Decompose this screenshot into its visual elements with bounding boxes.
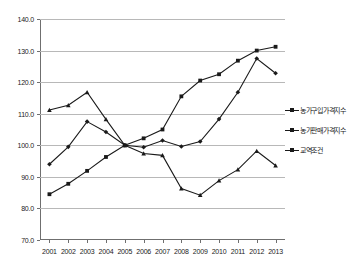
data-point-marker [85, 169, 89, 173]
data-point-marker [217, 72, 221, 76]
y-tick-label: 130.0 [0, 47, 34, 54]
x-tick-mark [87, 240, 88, 243]
legend-item-purchase-price-index: 농가구입가격지수 [285, 100, 359, 120]
legend-item-label: 농가구입가격지수 [299, 105, 346, 115]
x-tick-label: 2001 [42, 248, 57, 255]
x-tick-label: 2010 [212, 248, 227, 255]
y-tick-label: 120.0 [0, 79, 34, 86]
x-tick-mark [219, 240, 220, 243]
y-tick-mark [37, 240, 40, 241]
x-tick-mark [238, 240, 239, 243]
chart-legend: 농가구입가격지수 농가판매가격지수 교역조건 [285, 100, 359, 160]
x-tick-mark [144, 240, 145, 243]
line-chart: 140.0130.0120.0110.0100.090.080.070.0 20… [0, 0, 359, 271]
legend-item-terms-of-trade: 교역조건 [285, 140, 359, 160]
data-point-marker [48, 192, 52, 196]
y-tick-label: 110.0 [0, 110, 34, 117]
x-tick-mark [106, 240, 107, 243]
data-point-marker [66, 182, 70, 186]
series-line [49, 58, 275, 164]
data-point-marker [161, 128, 165, 132]
x-tick-label: 2004 [99, 248, 114, 255]
data-point-marker [85, 90, 90, 94]
x-tick-label: 2005 [117, 248, 132, 255]
y-tick-label: 90.0 [0, 173, 34, 180]
x-tick-mark [181, 240, 182, 243]
y-tick-label: 100.0 [0, 142, 34, 149]
x-tick-label: 2007 [155, 248, 170, 255]
x-tick-label: 2012 [249, 248, 264, 255]
data-point-marker [254, 149, 259, 153]
y-tick-label: 140.0 [0, 16, 34, 23]
data-point-marker [179, 186, 184, 190]
x-tick-label: 2013 [268, 248, 283, 255]
plot-area [40, 19, 285, 240]
legend-item-label: 교역조건 [299, 145, 323, 155]
x-tick-label: 2009 [193, 248, 208, 255]
legend-marker-icon [285, 126, 299, 135]
data-point-marker [160, 138, 165, 143]
series-lines [40, 19, 285, 240]
x-tick-mark [163, 240, 164, 243]
x-tick-label: 2002 [61, 248, 76, 255]
data-point-marker [179, 144, 184, 149]
series-line [49, 92, 275, 195]
x-tick-mark [125, 240, 126, 243]
x-tick-mark [257, 240, 258, 243]
data-point-marker [179, 94, 183, 98]
series-line [49, 47, 275, 194]
data-point-marker [255, 49, 259, 53]
data-point-marker [142, 136, 146, 140]
data-point-marker [198, 79, 202, 83]
x-tick-mark [200, 240, 201, 243]
legend-marker-icon [285, 106, 299, 115]
x-tick-mark [49, 240, 50, 243]
data-point-marker [274, 45, 278, 49]
x-tick-label: 2006 [136, 248, 151, 255]
legend-item-label: 농가판매가격지수 [299, 125, 346, 135]
x-tick-mark [276, 240, 277, 243]
data-point-marker [104, 155, 108, 159]
x-tick-label: 2011 [231, 248, 245, 255]
x-tick-label: 2008 [174, 248, 189, 255]
data-point-marker [217, 178, 222, 182]
y-tick-label: 80.0 [0, 205, 34, 212]
y-tick-label: 70.0 [0, 237, 34, 244]
data-point-marker [141, 145, 146, 150]
data-point-marker [236, 59, 240, 63]
x-tick-label: 2003 [80, 248, 95, 255]
legend-item-sales-price-index: 농가판매가격지수 [285, 120, 359, 140]
x-tick-mark [68, 240, 69, 243]
legend-marker-icon [285, 146, 299, 155]
